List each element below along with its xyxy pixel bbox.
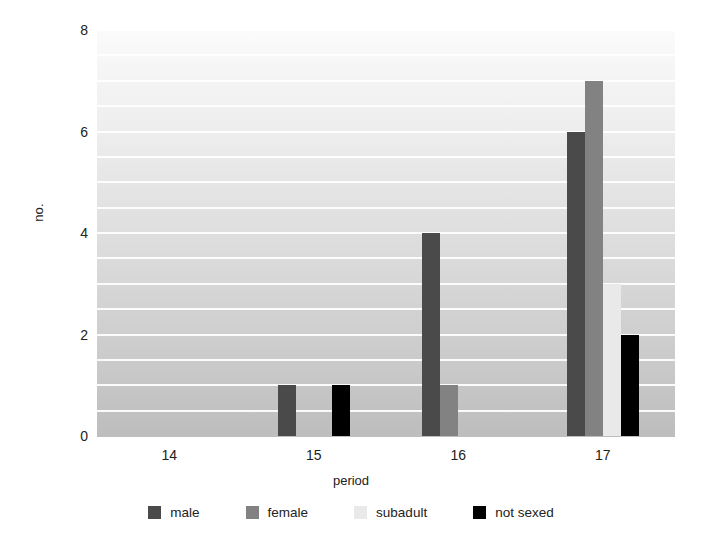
legend-label: not sexed (495, 505, 554, 520)
bar-female-16 (440, 385, 458, 436)
y-tick-label: 4 (58, 226, 88, 240)
legend-swatch-icon (354, 506, 367, 519)
bar-male-15 (278, 385, 296, 436)
legend-label: male (170, 505, 199, 520)
bar-not-sexed-15 (332, 385, 350, 436)
bar-subadult-17 (603, 284, 621, 436)
legend-swatch-icon (246, 506, 259, 519)
y-tick-label: 2 (58, 328, 88, 342)
bar-not-sexed-17 (621, 335, 639, 437)
gridline (97, 30, 675, 31)
legend-swatch-icon (148, 506, 161, 519)
x-tick-label-17: 17 (573, 447, 633, 463)
bar-chart: no. 02468 14151617 period malefemalesuba… (0, 0, 702, 555)
legend-item-male[interactable]: male (148, 505, 199, 520)
legend-item-female[interactable]: female (246, 505, 309, 520)
plot-area (97, 30, 675, 436)
x-axis-title: period (0, 473, 702, 488)
y-tick-label: 6 (58, 125, 88, 139)
bar-male-17 (567, 132, 585, 437)
x-tick-label-16: 16 (428, 447, 488, 463)
y-tick-label: 8 (58, 23, 88, 37)
chart-legend: malefemalesubadultnot sexed (0, 505, 702, 520)
legend-label: female (268, 505, 309, 520)
legend-swatch-icon (473, 506, 486, 519)
legend-item-not-sexed[interactable]: not sexed (473, 505, 554, 520)
bar-male-16 (422, 233, 440, 436)
y-axis-ticks: 02468 (52, 0, 88, 555)
y-axis-title: no. (31, 193, 46, 233)
x-tick-label-14: 14 (139, 447, 199, 463)
y-tick-label: 0 (58, 429, 88, 443)
x-tick-label-15: 15 (284, 447, 344, 463)
gridline (97, 54, 675, 56)
legend-item-subadult[interactable]: subadult (354, 505, 427, 520)
x-axis-baseline (97, 436, 675, 437)
legend-label: subadult (376, 505, 427, 520)
bar-female-17 (585, 81, 603, 436)
